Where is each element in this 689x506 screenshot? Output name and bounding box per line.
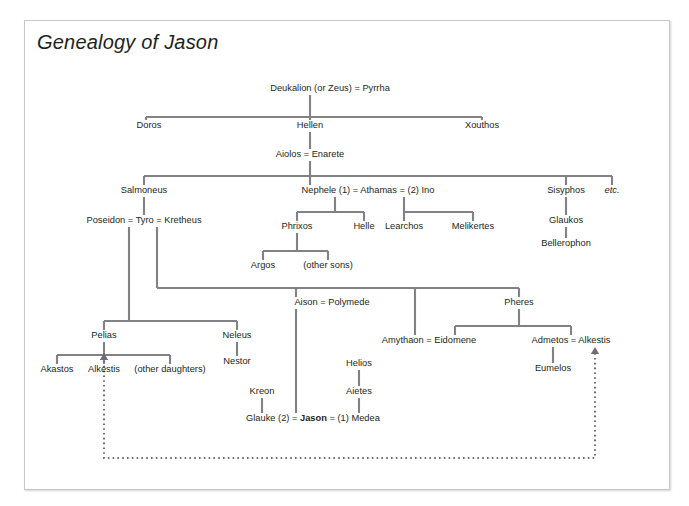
tree-node-helios: Helios — [346, 358, 372, 368]
tree-node-nestor: Nestor — [223, 356, 250, 366]
tree-node-deukalion: Deukalion (or Zeus) = Pyrrha — [270, 83, 390, 93]
tree-node-learchos: Learchos — [385, 221, 424, 231]
tree-node-helle: Helle — [353, 221, 374, 231]
tree-node-sisyphos: Sisyphos — [547, 185, 585, 195]
tree-node-segment: Jason — [300, 413, 327, 423]
tree-node-akastos: Akastos — [40, 364, 73, 374]
tree-node-segment: Glauke (2) = — [246, 413, 300, 423]
tree-node-argos: Argos — [251, 260, 276, 270]
tree-node-salmoneus: Salmoneus — [121, 185, 168, 195]
tree-nodes: Deukalion (or Zeus) = PyrrhaDorosHellenX… — [40, 83, 619, 423]
tree-node-aiolos: Aiolos = Enarete — [276, 149, 344, 159]
tree-node-xouthos: Xouthos — [465, 120, 499, 130]
tree-node-kreon: Kreon — [250, 386, 275, 396]
tree-node-amythaon: Amythaon = Eidomene — [382, 335, 476, 345]
tree-node-segment: = (1) Medea — [327, 413, 381, 423]
tree-node-aietes: Aietes — [346, 386, 372, 396]
genealogy-tree-diagram: Deukalion (or Zeus) = PyrrhaDorosHellenX… — [25, 21, 671, 491]
tree-node-glaukos: Glaukos — [549, 215, 583, 225]
tree-node-other_sons: (other sons) — [303, 260, 353, 270]
tree-node-pelias: Pelias — [91, 330, 117, 340]
tree-node-melikertes: Melikertes — [452, 221, 495, 231]
tree-node-phrixos: Phrixos — [281, 221, 312, 231]
tree-node-aison: Aison = Polymede — [294, 297, 369, 307]
tree-node-doros: Doros — [137, 120, 162, 130]
tree-node-jason_row_a: Glauke (2) = Jason = (1) Medea — [246, 413, 381, 423]
tree-node-poseidon: Poseidon = Tyro = Kretheus — [86, 215, 201, 225]
tree-node-bellerophon: Bellerophon — [541, 238, 591, 248]
tree-node-eumelos: Eumelos — [535, 363, 572, 373]
tree-node-admetos: Admetos = Alkestis — [532, 335, 611, 345]
tree-node-neleus: Neleus — [223, 330, 252, 340]
tree-node-alkestis: Alkestis — [88, 364, 120, 374]
figure-frame: Genealogy of Jason Deukalion (or Zeus) =… — [24, 20, 670, 490]
tree-node-hellen: Hellen — [297, 120, 323, 130]
tree-node-other_daus: (other daughters) — [134, 364, 205, 374]
arrowhead-icon — [591, 347, 599, 354]
tree-node-etc: etc. — [605, 185, 620, 195]
tree-node-nephele: Nephele (1) = Athamas = (2) Ino — [302, 185, 435, 195]
tree-node-pheres: Pheres — [504, 297, 534, 307]
